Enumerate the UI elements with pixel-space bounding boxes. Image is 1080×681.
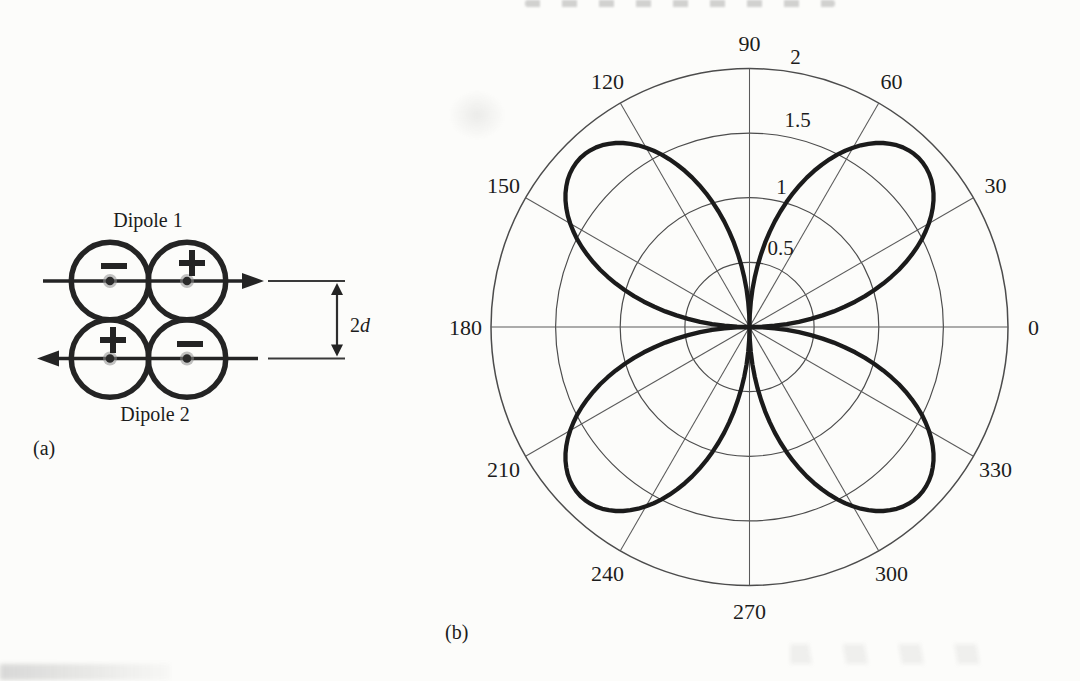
- grid-ray-300: [750, 327, 879, 551]
- radial-tick-label-0.5: 0.5: [767, 236, 793, 260]
- dot-core: [106, 354, 115, 363]
- source-center-dot: [180, 352, 194, 366]
- angle-tick-label-30: 30: [985, 173, 1007, 198]
- source-center-dot: [180, 274, 194, 288]
- up-arrowhead-icon: [331, 283, 343, 295]
- angle-tick-label-240: 240: [591, 561, 624, 586]
- separation-label: 2d: [350, 314, 371, 336]
- angle-tick-label-0: 0: [1028, 315, 1039, 340]
- dipole2-label: Dipole 2: [120, 403, 189, 426]
- plus-sign-icon: [179, 250, 205, 276]
- grid-ray-210: [526, 327, 750, 456]
- radial-tick-label-1.5: 1.5: [784, 108, 810, 132]
- angle-tick-label-60: 60: [881, 69, 903, 94]
- polar-directivity-chart: (b) 03060901201501802102402703003300.511…: [430, 0, 1080, 681]
- source-center-dot: [103, 274, 117, 288]
- panel-b-label: (b): [445, 621, 468, 644]
- right-arrowhead-icon: [242, 273, 264, 289]
- dipole-diagram: Dipole 1: [20, 190, 430, 490]
- left-arrowhead-icon: [37, 351, 59, 367]
- scan-artifact: [0, 664, 170, 680]
- angle-tick-label-210: 210: [487, 457, 520, 482]
- panel-a-label: (a): [33, 437, 55, 460]
- down-arrowhead-icon: [331, 345, 343, 357]
- angle-tick-label-120: 120: [591, 69, 624, 94]
- angle-tick-label-180: 180: [449, 315, 482, 340]
- scanned-figure-page: Dipole 1: [0, 0, 1080, 681]
- angle-tick-label-90: 90: [739, 31, 761, 56]
- grid-ray-330: [750, 327, 974, 456]
- angle-tick-label-150: 150: [487, 173, 520, 198]
- grid-ray-60: [750, 103, 879, 327]
- grid-ray-240: [620, 327, 749, 551]
- separation-dimension-arrow: [331, 283, 343, 357]
- grid-ray-30: [750, 198, 974, 327]
- dot-core: [183, 277, 192, 286]
- grid-ray-150: [526, 198, 750, 327]
- angle-tick-label-330: 330: [979, 457, 1012, 482]
- grid-ray-120: [620, 103, 749, 327]
- radial-tick-label-1: 1: [776, 175, 787, 199]
- plus-sign-icon: [100, 327, 126, 353]
- dot-core: [106, 277, 115, 286]
- dot-core: [183, 354, 192, 363]
- dipole1-label: Dipole 1: [113, 209, 182, 232]
- radial-tick-label-2: 2: [790, 45, 801, 69]
- angle-tick-label-300: 300: [875, 561, 908, 586]
- angle-tick-label-270: 270: [733, 599, 766, 624]
- source-center-dot: [103, 352, 117, 366]
